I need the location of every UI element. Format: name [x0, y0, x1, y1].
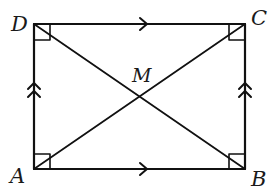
- intersection-label-m: M: [132, 66, 151, 85]
- vertex-label-c: C: [251, 8, 267, 29]
- rectangle-diagram: [0, 0, 275, 194]
- vertex-label-b: B: [251, 169, 266, 190]
- vertex-label-d: D: [11, 14, 28, 35]
- vertex-label-a: A: [10, 166, 25, 187]
